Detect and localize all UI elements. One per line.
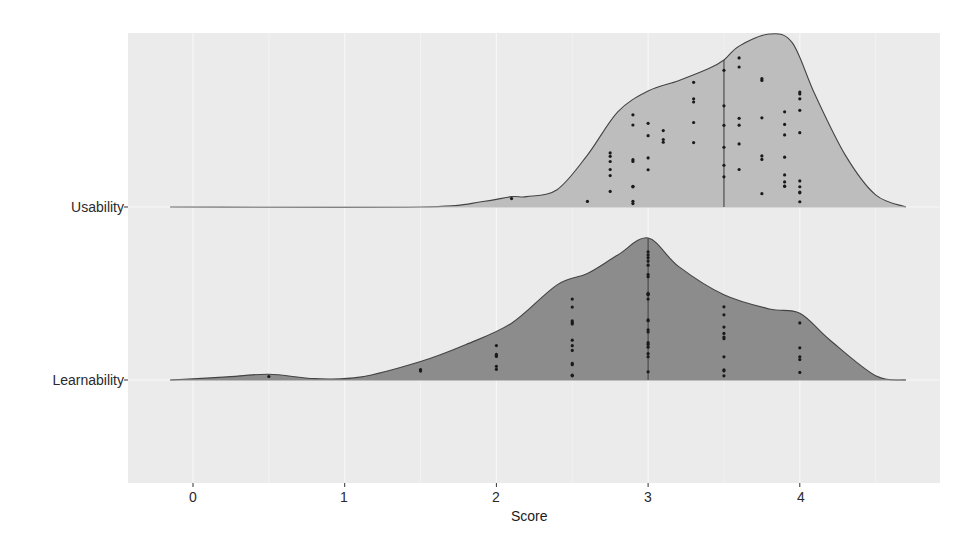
data-point (722, 332, 725, 335)
data-point (647, 273, 650, 276)
data-point (760, 116, 763, 119)
data-point (647, 156, 650, 159)
data-point (783, 173, 786, 176)
data-point (631, 202, 634, 205)
data-point (760, 158, 763, 161)
data-point (647, 328, 650, 331)
data-point (692, 81, 695, 84)
data-point (722, 104, 725, 107)
data-point (647, 297, 650, 300)
data-point (760, 192, 763, 195)
data-point (798, 97, 801, 100)
data-point (609, 155, 612, 158)
data-point (647, 352, 650, 355)
data-point (571, 339, 574, 342)
data-point (722, 164, 725, 167)
x-tick-label-3: 3 (633, 489, 663, 505)
ridgeline-chart (0, 0, 975, 554)
data-point (647, 256, 650, 259)
data-point (722, 336, 725, 339)
data-point (495, 368, 498, 371)
data-point (571, 319, 574, 322)
data-point (722, 325, 725, 328)
x-tick-label-1: 1 (329, 489, 359, 505)
data-point (692, 100, 695, 103)
data-point (647, 264, 650, 267)
data-point (798, 321, 801, 324)
data-point (738, 117, 741, 120)
data-point (798, 358, 801, 361)
data-point (647, 134, 650, 137)
data-point (631, 113, 634, 116)
data-point (760, 77, 763, 80)
data-point (609, 160, 612, 163)
x-tick-label-2: 2 (481, 489, 511, 505)
data-point (798, 185, 801, 188)
x-tick-label-0: 0 (178, 489, 208, 505)
data-point (798, 371, 801, 374)
data-point (495, 353, 498, 356)
data-point (609, 190, 612, 193)
data-point (798, 92, 801, 95)
data-point (722, 305, 725, 308)
data-point (798, 131, 801, 134)
data-point (692, 97, 695, 100)
data-point (738, 142, 741, 145)
data-point (662, 129, 665, 132)
data-point (609, 168, 612, 171)
data-point (798, 109, 801, 112)
data-point (798, 190, 801, 193)
data-point (571, 349, 574, 352)
data-point (647, 250, 650, 253)
data-point (722, 69, 725, 72)
data-point (783, 184, 786, 187)
data-point (586, 200, 589, 203)
y-label-learnability: Learnability (0, 372, 124, 388)
data-point (783, 133, 786, 136)
data-point (738, 65, 741, 68)
data-point (631, 160, 634, 163)
data-point (798, 355, 801, 358)
data-point (571, 305, 574, 308)
data-point (760, 154, 763, 157)
data-point (692, 141, 695, 144)
data-point (783, 156, 786, 159)
data-point (647, 341, 650, 344)
y-label-usability: Usability (0, 199, 124, 215)
data-point (647, 319, 650, 322)
data-point (647, 355, 650, 358)
data-point (495, 365, 498, 368)
data-point (738, 124, 741, 127)
data-point (798, 200, 801, 203)
data-point (647, 259, 650, 262)
data-point (647, 370, 650, 373)
data-point (783, 180, 786, 183)
data-point (495, 344, 498, 347)
data-point (798, 179, 801, 182)
data-point (722, 368, 725, 371)
data-point (783, 110, 786, 113)
data-point (609, 174, 612, 177)
data-point (571, 362, 574, 365)
data-point (692, 121, 695, 124)
data-point (662, 141, 665, 144)
data-point (510, 197, 513, 200)
data-point (722, 175, 725, 178)
data-point (571, 374, 574, 377)
data-point (647, 122, 650, 125)
data-point (662, 138, 665, 141)
data-point (419, 368, 422, 371)
x-tick-label-4: 4 (786, 489, 816, 505)
data-point (647, 168, 650, 171)
data-point (722, 374, 725, 377)
data-point (798, 346, 801, 349)
data-point (722, 313, 725, 316)
data-point (631, 123, 634, 126)
x-axis-title: Score (511, 508, 548, 524)
data-point (722, 355, 725, 358)
data-point (609, 151, 612, 154)
data-point (647, 253, 650, 256)
data-point (631, 185, 634, 188)
data-point (738, 56, 741, 59)
data-point (783, 123, 786, 126)
